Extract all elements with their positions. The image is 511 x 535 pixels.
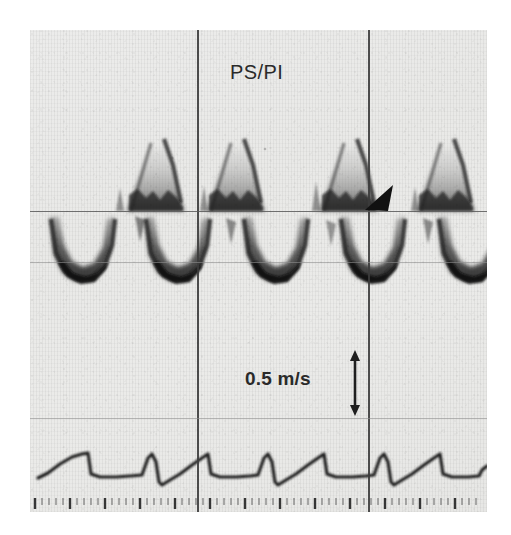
ultrasound-plate: PS/PI 0.5 m/s [30,30,487,512]
baseline-zero-velocity [30,211,487,212]
gridline-vertical-2 [368,30,370,512]
vessel-label: PS/PI [230,61,283,84]
negative-flow-envelopes [49,216,487,284]
solid-triangular-arrowhead-icon [362,182,396,214]
gridline-horizontal-ecg-divider [30,418,487,419]
time-ruler [35,498,476,509]
gridline-vertical-1 [197,30,199,512]
double-headed-vertical-arrow-icon [347,350,363,416]
positive-flow-envelopes [116,137,475,211]
spectral-waveform-layer [30,30,487,512]
gridline-horizontal-lower [30,262,487,263]
velocity-scale-label: 0.5 m/s [245,368,311,390]
ecg-trace [38,453,487,485]
doppler-figure: PS/PI 0.5 m/s [0,0,511,535]
